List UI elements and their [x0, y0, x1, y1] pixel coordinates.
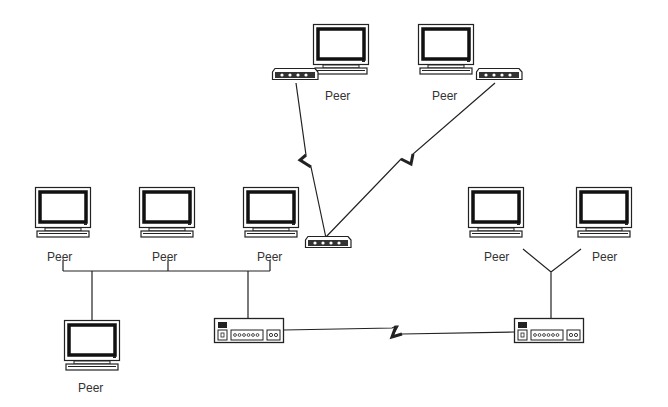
- modem-icon: [306, 237, 352, 248]
- computer-icon: [140, 188, 195, 238]
- modem-icon: [477, 69, 523, 80]
- peer-top-right[interactable]: Peer: [419, 25, 474, 104]
- peer-top-left[interactable]: Peer: [314, 25, 369, 104]
- peer-label: Peer: [257, 250, 282, 264]
- computer-icon: [65, 321, 120, 371]
- peer-mid-2[interactable]: Peer: [140, 188, 195, 265]
- modem-center[interactable]: [306, 237, 352, 248]
- peer-bottom-left[interactable]: Peer: [65, 321, 120, 396]
- peer-label: Peer: [152, 250, 177, 264]
- hub-right[interactable]: [515, 319, 584, 343]
- hub-icon: [215, 319, 284, 343]
- backbone-bus: [63, 260, 270, 320]
- computer-icon: [419, 25, 474, 75]
- peer-label: Peer: [47, 250, 72, 264]
- peer-right-2[interactable]: Peer: [577, 188, 632, 265]
- peer-label: Peer: [592, 250, 617, 264]
- hub-icon: [515, 319, 584, 343]
- modem-top-right[interactable]: [477, 69, 523, 80]
- right-peer-links: [523, 249, 581, 318]
- peer-label: Peer: [432, 89, 457, 103]
- peer-label: Peer: [325, 89, 350, 103]
- peer-label: Peer: [78, 381, 103, 395]
- computer-icon: [36, 188, 91, 238]
- network-diagram: Peer Peer Peer Peer Peer Peer Peer: [0, 0, 668, 407]
- peer-mid-3[interactable]: Peer: [244, 188, 299, 265]
- computer-icon: [244, 188, 299, 238]
- hub-left[interactable]: [215, 319, 284, 343]
- peer-right-1[interactable]: Peer: [469, 188, 524, 265]
- peer-label: Peer: [484, 250, 509, 264]
- computer-icon: [314, 25, 369, 75]
- computer-icon: [469, 188, 524, 238]
- peer-mid-1[interactable]: Peer: [36, 188, 91, 265]
- modem-top-left[interactable]: [273, 69, 319, 80]
- computer-icon: [577, 188, 632, 238]
- modem-icon: [273, 69, 319, 80]
